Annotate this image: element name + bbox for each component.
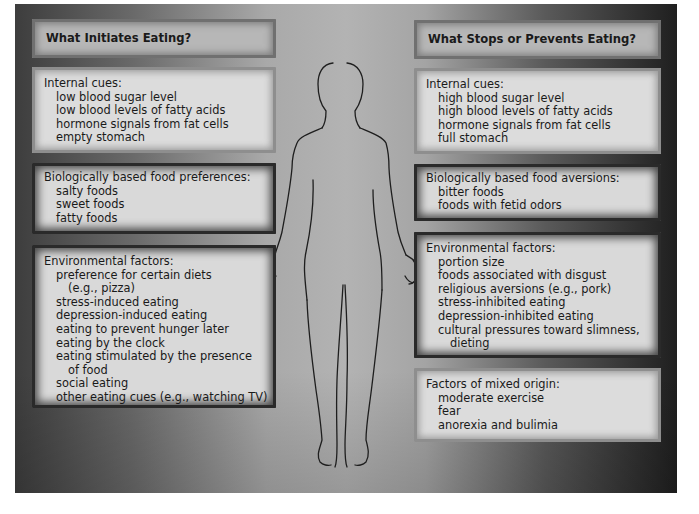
list-item: dieting — [426, 337, 655, 351]
right-biological-aversions-box: Biologically based food aversions: bitte… — [414, 164, 661, 221]
list-item: salty foods — [44, 185, 270, 199]
initiates-eating-title: What Initiates Eating? — [32, 19, 276, 58]
right-internal-cues-heading: Internal cues: — [426, 78, 655, 92]
list-item: low blood sugar level — [44, 91, 270, 105]
list-item: hormone signals from fat cells — [426, 119, 655, 133]
list-item: fear — [426, 405, 655, 419]
right-mixed-origin-box: Factors of mixed origin: moderate exerci… — [414, 368, 661, 442]
list-item: foods with fetid odors — [426, 199, 655, 213]
list-item: eating stimulated by the presence — [44, 350, 270, 364]
right-internal-cues-box: Internal cues: high blood sugar level hi… — [414, 68, 661, 154]
right-mixed-heading: Factors of mixed origin: — [426, 378, 655, 392]
left-internal-cues-box: Internal cues: low blood sugar level low… — [32, 67, 276, 153]
list-item: eating by the clock — [44, 337, 270, 351]
left-environmental-factors-box: Environmental factors: preference for ce… — [32, 245, 276, 408]
left-biological-heading: Biologically based food preferences: — [44, 171, 270, 185]
initiates-eating-title-text: What Initiates Eating? — [46, 31, 191, 45]
list-item: religious aversions (e.g., pork) — [426, 283, 655, 297]
list-item: foods associated with disgust — [426, 269, 655, 283]
stops-eating-title-text: What Stops or Prevents Eating? — [428, 32, 636, 46]
list-item: stress-inhibited eating — [426, 296, 655, 310]
list-item: depression-induced eating — [44, 309, 270, 323]
list-item: high blood sugar level — [426, 92, 655, 106]
list-item: other eating cues (e.g., watching TV) — [44, 391, 270, 405]
list-item: social eating — [44, 377, 270, 391]
left-environmental-heading: Environmental factors: — [44, 255, 270, 269]
list-item: stress-induced eating — [44, 296, 270, 310]
right-environmental-factors-box: Environmental factors: portion size food… — [414, 232, 661, 358]
list-item: full stomach — [426, 132, 655, 146]
list-item: depression-inhibited eating — [426, 310, 655, 324]
right-biological-heading: Biologically based food aversions: — [426, 172, 655, 186]
list-item: sweet foods — [44, 198, 270, 212]
list-item: low blood levels of fatty acids — [44, 104, 270, 118]
list-item: eating to prevent hunger later — [44, 323, 270, 337]
right-environmental-heading: Environmental factors: — [426, 242, 655, 256]
left-internal-cues-heading: Internal cues: — [44, 77, 270, 91]
left-biological-preferences-box: Biologically based food preferences: sal… — [32, 163, 276, 234]
list-item: bitter foods — [426, 186, 655, 200]
list-item: empty stomach — [44, 131, 270, 145]
list-item: preference for certain diets — [44, 269, 270, 283]
list-item: high blood levels of fatty acids — [426, 105, 655, 119]
list-item: (e.g., pizza) — [44, 282, 270, 296]
list-item: cultural pressures toward slimness, — [426, 324, 655, 338]
list-item: hormone signals from fat cells — [44, 118, 270, 132]
list-item: moderate exercise — [426, 392, 655, 406]
list-item: anorexia and bulimia — [426, 419, 655, 433]
list-item: portion size — [426, 256, 655, 270]
stops-eating-title: What Stops or Prevents Eating? — [414, 20, 661, 59]
list-item: fatty foods — [44, 212, 270, 226]
list-item: of food — [44, 364, 270, 378]
